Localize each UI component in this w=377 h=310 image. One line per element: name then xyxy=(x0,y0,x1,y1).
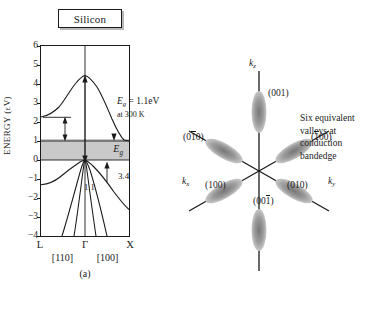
valley-100-label: (100) xyxy=(205,180,226,190)
kx-axis-label: kx xyxy=(182,176,189,187)
band-plot-area: Eg xyxy=(40,45,130,237)
y-tick-mark-3 xyxy=(37,103,41,104)
silicon-title-box: Silicon xyxy=(58,9,122,28)
figure-silicon-band-structure: Silicon ENERGY (eV) Eg xyxy=(0,0,377,310)
valley-00bar1-label: (001) xyxy=(253,196,274,206)
valley-010-label: (010) xyxy=(287,180,308,190)
valleys-caption-line-4: bandedge xyxy=(300,150,376,163)
bandgap-annotation-line2: at 300 K xyxy=(117,109,159,121)
panel-a-band-diagram: Silicon ENERGY (eV) Eg xyxy=(0,0,180,310)
ky-axis-label: ky xyxy=(328,176,335,187)
valence-band-light-hole-curve xyxy=(62,160,107,236)
x-direction-label-0: [110] xyxy=(52,252,73,263)
x-tick-label-1: Γ xyxy=(82,239,88,250)
valleys-caption-line-2: valleys at xyxy=(300,125,376,138)
bandgap-annotation-line1: Eg = 1.1eV xyxy=(117,95,159,109)
y-tick-mark-4 xyxy=(37,122,41,123)
valleys-caption-line-3: conduction xyxy=(300,137,376,150)
y-tick-mark-0 xyxy=(37,46,41,47)
y-tick-mark-5 xyxy=(37,141,41,142)
y-tick-mark-10 xyxy=(37,236,41,237)
y-tick-mark-7 xyxy=(37,179,41,180)
y-tick-mark-8 xyxy=(37,198,41,199)
valley-001-ellipsoid xyxy=(252,91,267,133)
valley-00bar1-ellipsoid xyxy=(252,209,267,251)
valleys-caption-line-1: Six equivalent xyxy=(300,112,376,125)
indirect-gap-arrowhead-down xyxy=(63,135,68,142)
x-direction-label-1: [100] xyxy=(97,252,119,263)
y-tick-mark-6 xyxy=(37,160,41,161)
y-tick-mark-9 xyxy=(37,217,41,218)
y-tick-mark-2 xyxy=(37,84,41,85)
band-curves xyxy=(41,46,129,236)
x-tick-label-0: L xyxy=(37,239,43,250)
y-tick-mark-1 xyxy=(37,65,41,66)
valley-ellipsoids xyxy=(180,40,377,290)
y-axis-label: ENERGY (eV) xyxy=(2,96,12,155)
silicon-title-text: Silicon xyxy=(74,13,107,25)
bandgap-annotation: Eg = 1.1eV at 300 K xyxy=(117,95,159,120)
valley-001-label: (001) xyxy=(268,88,289,98)
conduction-min-arrowhead xyxy=(111,134,116,142)
x-tick-label-2: X xyxy=(126,239,134,250)
kz-axis-label: kz xyxy=(249,58,256,69)
caption-panel-a: (a) xyxy=(79,268,90,279)
indirect-gap-value-label: 1.1 xyxy=(84,182,95,192)
valleys-description-caption: Six equivalent valleys at conduction ban… xyxy=(300,112,376,162)
valley-0bar10-label: (010) xyxy=(183,132,204,142)
valley-0bar10-ellipsoid xyxy=(202,134,246,168)
valence-max-arrowhead xyxy=(104,162,109,169)
direct-gap-value-label: 3.4 xyxy=(118,171,129,181)
